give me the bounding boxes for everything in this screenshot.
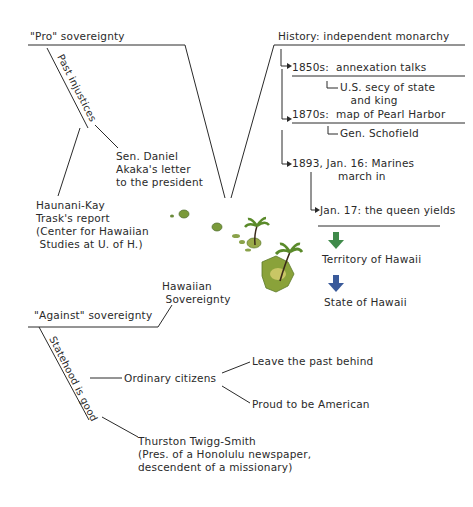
akaka-letter-item: Sen. Daniel Akaka's letter to the presid… — [116, 150, 203, 189]
event-1870s-detail: Gen. Schofield — [340, 127, 419, 140]
state-outcome: State of Hawaii — [324, 296, 407, 309]
hawaiian-sovereignty-center-label: Hawaiian Sovereignty — [162, 280, 231, 306]
event-jan17: Jan. 17: the queen yields — [320, 204, 456, 217]
event-1870s: 1870s: map of Pearl Harbor — [292, 108, 445, 121]
twigg-smith-item: Thurston Twigg-Smith (Pres. of a Honolul… — [138, 435, 311, 474]
territory-arrow-icon — [328, 232, 344, 249]
state-arrow-icon — [328, 275, 344, 292]
pro-sovereignty-heading: "Pro" sovereignty — [30, 30, 125, 43]
ordinary-citizens-item: Ordinary citizens — [124, 372, 216, 385]
leave-past-behind-item: Leave the past behind — [252, 355, 373, 368]
event-1850s-detail: U.S. secy of state and king — [340, 81, 435, 107]
sovereignty-diagram: "Pro" sovereignty Past injustices Sen. D… — [0, 0, 473, 507]
against-sovereignty-heading: "Against" sovereignty — [34, 309, 152, 322]
proud-american-item: Proud to be American — [252, 398, 370, 411]
event-1893: 1893, Jan. 16: Marines march in — [292, 157, 414, 183]
event-1850s: 1850s: annexation talks — [292, 61, 426, 74]
history-heading: History: independent monarchy — [278, 30, 449, 43]
territory-outcome: Territory of Hawaii — [322, 253, 421, 266]
trask-report-item: Haunani-Kay Trask's report (Center for H… — [36, 199, 149, 251]
